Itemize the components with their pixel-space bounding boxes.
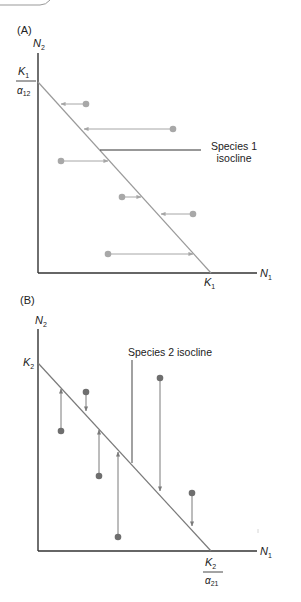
panel-b-y-intercept: K2 [23, 356, 34, 370]
panel-b-y-axis-label: N2 [35, 314, 47, 328]
frame-edge [0, 0, 50, 5]
panel-b-x-axis-label: N1 [260, 545, 272, 559]
population-point [83, 389, 90, 396]
panel-a-label: (A) [17, 24, 32, 36]
panel-a-y-axis-label: N2 [33, 37, 45, 51]
population-point [189, 490, 196, 497]
species-1-isocline-label-line1: Species 1 [211, 140, 257, 152]
panel-b-trajectories [61, 378, 192, 537]
panel-a-y-intercept-numerator: K1 [18, 65, 29, 79]
species-2-isocline [38, 363, 211, 551]
species-1-isocline [38, 82, 211, 273]
population-point [83, 101, 90, 108]
population-point [58, 158, 65, 165]
population-point [119, 194, 126, 201]
panel-b-label: (B) [20, 294, 35, 306]
population-point [96, 473, 103, 480]
panel-a-x-intercept: K1 [204, 276, 215, 290]
population-point [105, 251, 112, 258]
population-point [190, 211, 197, 218]
isocline-figure: (A) N2 N1 K1 α12 K1 Species 1 isocline [0, 0, 301, 602]
population-point [115, 534, 122, 541]
panel-a-y-intercept-denominator: α12 [17, 85, 31, 97]
population-point [170, 126, 177, 133]
species-2-isocline-label: Species 2 isocline [128, 346, 212, 358]
panel-b: (B) N2 N1 K2 K2 α21 Species 2 isocline [20, 294, 272, 587]
population-point [157, 375, 164, 382]
population-point [58, 428, 65, 435]
panel-b-points [58, 375, 196, 541]
panel-b-x-intercept-denominator: α21 [205, 575, 219, 587]
panel-b-x-intercept-numerator: K2 [205, 556, 216, 570]
panel-a-x-axis-label: N1 [260, 267, 272, 281]
panel-a: (A) N2 N1 K1 α12 K1 Species 1 isocline [16, 24, 272, 290]
species-1-isocline-label-line2: isocline [216, 152, 251, 164]
